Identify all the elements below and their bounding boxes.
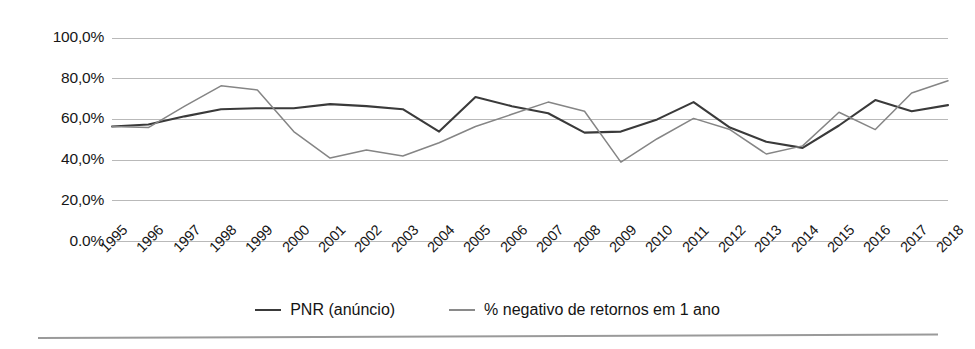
y-axis-tick-label: 20,0% bbox=[12, 191, 104, 209]
legend-line-swatch-icon bbox=[449, 309, 475, 311]
y-axis-tick-label: 80,0% bbox=[12, 69, 104, 87]
chart-gridlines bbox=[112, 38, 948, 242]
legend-line-swatch-icon bbox=[255, 309, 281, 311]
page-rule-divider bbox=[38, 334, 938, 339]
series-line-1 bbox=[112, 97, 948, 148]
chart-legend: PNR (anúncio)% negativo de retornos em 1… bbox=[0, 296, 975, 324]
chart-figure: 0.0%20,0%40,0%60,0%80,0%100,0% 199519961… bbox=[0, 0, 975, 349]
y-axis-tick-label: 40,0% bbox=[12, 150, 104, 168]
legend-entry-2[interactable]: % negativo de retornos em 1 ano bbox=[449, 301, 720, 319]
legend-label: % negativo de retornos em 1 ano bbox=[484, 301, 720, 319]
legend-label: PNR (anúncio) bbox=[290, 301, 395, 319]
y-axis: 0.0%20,0%40,0%60,0%80,0%100,0% bbox=[0, 0, 104, 260]
series-line-2 bbox=[112, 81, 948, 162]
chart-plot-area bbox=[0, 0, 975, 260]
x-axis: 1995199619971998199920002001200220032004… bbox=[0, 244, 975, 304]
y-axis-tick-label: 60,0% bbox=[12, 109, 104, 127]
legend-entry-1[interactable]: PNR (anúncio) bbox=[255, 301, 395, 319]
y-axis-tick-label: 100,0% bbox=[12, 28, 104, 46]
chart-series-layer bbox=[112, 81, 948, 162]
